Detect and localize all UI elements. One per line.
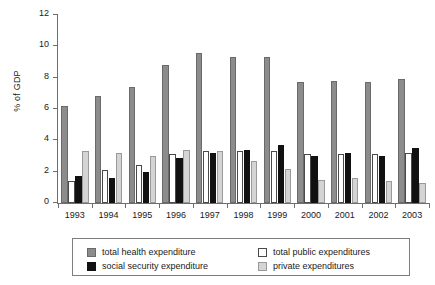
y-tick-label: 2 — [44, 165, 49, 175]
bar — [237, 151, 243, 203]
bar — [379, 156, 385, 203]
bar — [372, 154, 378, 203]
bar — [386, 181, 392, 203]
x-axis-label: 1996 — [159, 210, 193, 220]
y-tick: 4 — [53, 139, 58, 140]
bar — [304, 154, 310, 203]
legend-swatch-icon — [87, 262, 96, 271]
legend-swatch-icon — [87, 248, 96, 257]
x-tick — [395, 203, 396, 208]
y-tick: 6 — [53, 108, 58, 109]
x-tick — [125, 203, 126, 208]
plot-area: 024681012 199319941995199619971998199920… — [58, 15, 429, 203]
bar-group — [196, 15, 223, 203]
x-tick — [294, 203, 295, 208]
x-axis-label: 2003 — [395, 210, 429, 220]
y-tick-label: 8 — [44, 71, 49, 81]
bar-group — [61, 15, 88, 203]
legend-label: total public expenditures — [273, 247, 370, 257]
y-tick-label: 6 — [44, 102, 49, 112]
x-tick — [260, 203, 261, 208]
y-tick-label: 12 — [39, 8, 49, 18]
x-tick — [159, 203, 160, 208]
bar — [203, 151, 209, 203]
legend-label: total health expenditure — [102, 247, 196, 257]
bar — [102, 170, 108, 203]
bar — [244, 150, 250, 203]
bar-group — [264, 15, 291, 203]
legend-item-total-public: total public expenditures — [258, 247, 370, 257]
legend-item-total-health: total health expenditure — [87, 247, 196, 257]
legend-label: private expenditures — [273, 261, 354, 271]
bar — [217, 151, 223, 203]
x-tick — [328, 203, 329, 208]
x-axis-label: 2000 — [294, 210, 328, 220]
bar — [210, 153, 216, 203]
bar — [419, 183, 425, 203]
x-axis-label: 1995 — [125, 210, 159, 220]
x-axis-label: 1994 — [92, 210, 126, 220]
x-axis-line — [57, 203, 429, 204]
x-axis-label: 1993 — [58, 210, 92, 220]
y-tick: 12 — [53, 14, 58, 15]
bar — [116, 153, 122, 203]
bar — [143, 172, 149, 203]
y-axis-line — [57, 15, 58, 204]
legend-item-private: private expenditures — [258, 261, 354, 271]
bar — [251, 161, 257, 203]
bar — [278, 145, 284, 203]
x-tick — [193, 203, 194, 208]
x-axis-label: 1999 — [260, 210, 294, 220]
bar — [338, 154, 344, 203]
bar — [352, 178, 358, 203]
bar — [136, 165, 142, 203]
bar — [405, 153, 411, 203]
bar — [230, 57, 236, 203]
bar — [318, 180, 324, 204]
bar — [68, 181, 74, 203]
bar-group — [129, 15, 156, 203]
y-tick-label: 10 — [39, 39, 49, 49]
x-tick — [227, 203, 228, 208]
bar-group — [162, 15, 189, 203]
legend-item-social-security: social security expenditure — [87, 261, 208, 271]
bar — [169, 154, 175, 203]
x-tick — [362, 203, 363, 208]
y-tick-label: 0 — [44, 196, 49, 206]
bar — [176, 158, 182, 203]
bar-group — [95, 15, 122, 203]
x-axis-label: 2002 — [362, 210, 396, 220]
bar — [150, 156, 156, 203]
bar — [412, 148, 418, 203]
bar — [264, 57, 270, 203]
bar — [162, 65, 168, 203]
legend-swatch-icon — [258, 262, 267, 271]
bar — [95, 96, 101, 203]
bar — [183, 150, 189, 203]
y-tick: 2 — [53, 171, 58, 172]
legend-swatch-icon — [258, 248, 267, 257]
bar — [285, 169, 291, 203]
chart-legend: total health expenditure social security… — [72, 238, 410, 276]
y-tick-label: 4 — [44, 133, 49, 143]
x-tick — [429, 203, 430, 208]
bar-group — [297, 15, 324, 203]
bar-group — [230, 15, 257, 203]
y-tick: 10 — [53, 45, 58, 46]
x-axis-label: 1998 — [227, 210, 261, 220]
bar-group — [398, 15, 425, 203]
legend-label: social security expenditure — [102, 261, 208, 271]
x-tick — [92, 203, 93, 208]
x-axis-label: 2001 — [328, 210, 362, 220]
x-tick — [58, 203, 59, 208]
bar — [129, 87, 135, 203]
bar — [297, 82, 303, 203]
bar-group — [365, 15, 392, 203]
y-axis-title: % of GDP — [12, 46, 22, 136]
bar — [109, 178, 115, 203]
x-axis-label: 1997 — [193, 210, 227, 220]
bar — [271, 151, 277, 203]
bar-chart: % of GDP 024681012 199319941995199619971… — [0, 0, 435, 285]
bar — [398, 79, 404, 203]
y-tick: 8 — [53, 77, 58, 78]
